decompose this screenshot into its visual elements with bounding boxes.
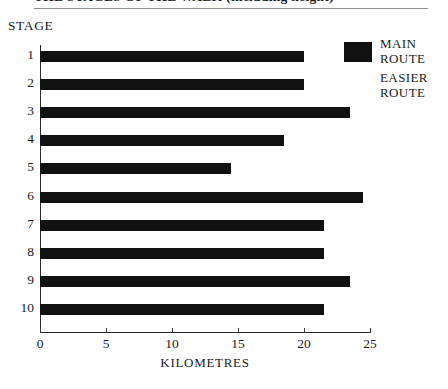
x-axis-tick-mark [238,328,239,333]
bar [40,276,350,287]
x-axis-tick-label: 5 [86,336,126,352]
y-axis-tick-label: 4 [4,131,34,147]
y-axis-tick-label: 8 [4,244,34,260]
y-axis-tick-label: 1 [4,47,34,63]
bar [40,107,350,118]
x-axis-line [40,332,371,333]
legend-label: EASIER ROUTE [380,70,428,100]
legend-label: MAIN ROUTE [380,36,425,66]
y-axis-tick-label: 5 [4,159,34,175]
bar [40,163,231,174]
bar [40,135,284,146]
x-axis-tick-mark [106,328,107,333]
bar [40,79,304,90]
y-axis-tick-label: 3 [4,103,34,119]
bar [40,220,324,231]
y-axis-tick-label: 2 [4,75,34,91]
legend-swatch-easier-route [344,76,372,96]
chart-legend: MAIN ROUTEEASIER ROUTE [344,38,448,106]
y-axis-tick-label: 10 [4,300,34,316]
x-axis-tick-mark [304,328,305,333]
x-axis-tick-label: 10 [152,336,192,352]
legend-item: MAIN ROUTE [344,38,448,72]
bar [40,192,363,203]
bar [40,304,324,315]
x-axis-tick-mark [370,328,371,333]
x-axis-title: KILOMETRES [0,355,410,371]
legend-item: EASIER ROUTE [344,72,448,106]
x-axis-tick-label: 25 [350,336,390,352]
y-axis-tick-label: 6 [4,188,34,204]
legend-swatch-main-route [344,42,372,62]
x-axis-tick-mark [172,328,173,333]
bar [40,248,324,259]
x-axis-tick-label: 20 [284,336,324,352]
x-axis-tick-mark [40,328,41,333]
x-axis-tick-label: 0 [20,336,60,352]
x-axis-tick-label: 15 [218,336,258,352]
y-axis-tick-label: 9 [4,272,34,288]
y-axis-tick-label: 7 [4,216,34,232]
bar [40,51,304,62]
y-axis-tick-labels: 12345678910 [0,0,34,389]
